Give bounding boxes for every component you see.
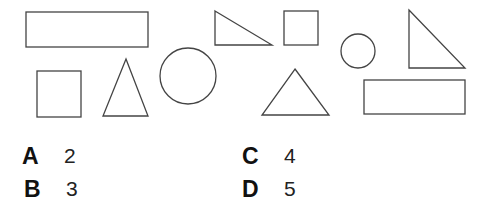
circle-shape [341, 34, 375, 68]
triangle-shape [103, 59, 148, 116]
option-d[interactable]: D 5 [242, 176, 296, 199]
option-a[interactable]: A 2 [22, 143, 76, 169]
triangle-shape [409, 10, 465, 68]
option-value: 5 [284, 177, 296, 199]
option-value: 2 [64, 144, 76, 168]
option-b[interactable]: B 3 [24, 176, 78, 199]
rectangle-shape [26, 12, 148, 47]
option-letter: C [242, 143, 284, 170]
option-value: 4 [284, 144, 296, 168]
option-c[interactable]: C 4 [242, 143, 296, 169]
option-letter: B [24, 176, 66, 200]
square-shape [284, 11, 318, 45]
rectangle-shape [364, 80, 465, 114]
shapes-figure [0, 0, 489, 130]
triangle-shape [215, 11, 272, 45]
option-letter: D [242, 176, 284, 200]
option-value: 3 [66, 177, 78, 199]
triangle-shape [262, 69, 329, 115]
option-letter: A [22, 143, 64, 170]
circle-shape [160, 48, 216, 104]
square-shape [37, 71, 81, 117]
